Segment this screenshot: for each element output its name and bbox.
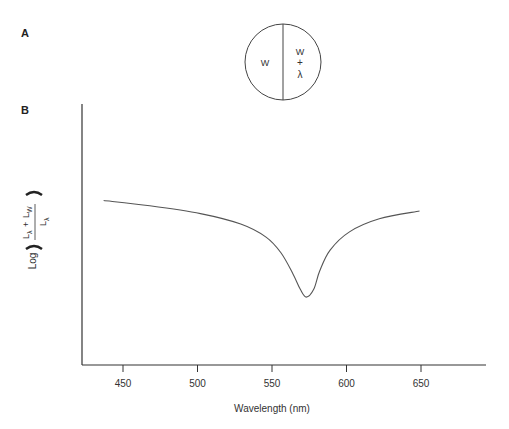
chart-axes: 450500550600650 Wavelength (nm) (82, 104, 486, 414)
y-axis-label: Log L λ + L W L λ (21, 192, 50, 269)
x-axis-label: Wavelength (nm) (234, 403, 310, 414)
x-tick-label: 650 (413, 378, 430, 389)
field-left-label: W (261, 58, 270, 68)
bipartite-field: W W + λ (245, 24, 321, 100)
x-tick-label: 500 (189, 378, 206, 389)
num-plus: + (21, 222, 31, 227)
field-right-label-top: W (296, 47, 305, 57)
x-ticks: 450500550600650 (115, 365, 430, 389)
figure: W W + λ 450500550600650 Wavelength (nm) … (0, 0, 509, 429)
right-paren (26, 192, 42, 195)
x-tick-label: 550 (264, 378, 281, 389)
field-right-label-plus: + (297, 57, 303, 68)
den-sub: λ (43, 217, 50, 221)
left-paren (26, 246, 42, 249)
num-sub1: λ (26, 230, 33, 234)
x-tick-label: 450 (115, 378, 132, 389)
field-right-label-lambda: λ (298, 69, 303, 80)
x-tick-label: 600 (338, 378, 355, 389)
y-label-log: Log (27, 253, 38, 270)
data-curve (104, 201, 420, 298)
num-sub2: W (26, 206, 33, 213)
